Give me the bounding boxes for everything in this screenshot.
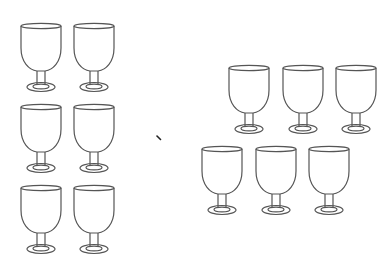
goblet-icon <box>19 22 63 94</box>
goblet-icon <box>72 103 116 175</box>
goblet-icon <box>19 103 63 175</box>
goblet-icon <box>72 184 116 256</box>
goblet-icon <box>281 64 325 136</box>
goblet-icon <box>307 145 351 217</box>
goblet-icon <box>19 184 63 256</box>
goblet-icon <box>72 22 116 94</box>
goblet-icon <box>200 145 244 217</box>
goblet-icon <box>334 64 378 136</box>
goblet-icon <box>227 64 271 136</box>
separator-mark <box>156 135 162 141</box>
goblet-icon <box>254 145 298 217</box>
